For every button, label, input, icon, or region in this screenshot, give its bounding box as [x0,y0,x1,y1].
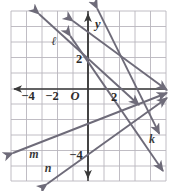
origin-label: O [70,89,79,103]
coordinate-plane-figure: y O −4 −2 2 2 −4 ℓ k m n [0,0,173,191]
x-tick-negative-four: −4 [21,89,35,103]
graph-canvas: y O −4 −2 2 2 −4 ℓ k m n [0,0,173,191]
line-label-k: k [149,132,155,146]
line-label-n: n [45,161,52,175]
y-axis-label: y [93,17,101,31]
x-tick-positive-two: 2 [111,90,117,104]
y-tick-positive-two: 2 [76,52,82,66]
line-label-m: m [29,147,38,161]
line-label-l: ℓ [51,34,56,48]
y-tick-negative-four: −4 [69,148,83,162]
x-tick-negative-two: −2 [45,89,58,103]
